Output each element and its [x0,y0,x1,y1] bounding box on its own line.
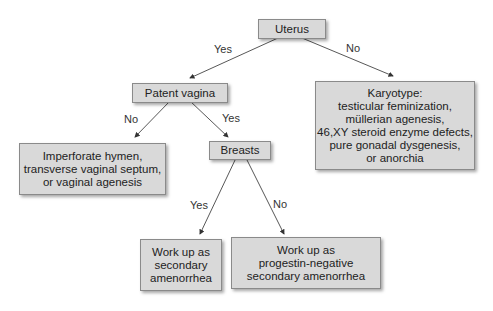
edge-label-breasts-yes: Yes [190,199,208,211]
imperforate-line: Imperforate hymen, [43,150,143,163]
node-imperforate: Imperforate hymen, transverse vaginal se… [19,143,166,195]
node-secondary-amenorrhea: Work up as secondary amenorrhea [140,239,222,291]
secondary-line: amenorrhea [150,272,212,285]
node-breasts: Breasts [209,141,271,160]
karyotype-line: Karyotype: [368,87,423,100]
edge-label-uterus-no: No [346,42,360,54]
node-progestin-negative: Work up as progestin-negative secondary … [231,237,381,289]
progestin-line: secondary amenorrhea [247,270,365,283]
node-uterus: Uterus [258,19,326,39]
imperforate-line: transverse vaginal septum, [24,163,161,176]
karyotype-line: 46,XY steroid enzyme defects, [317,126,473,139]
edge-label-vagina-no: No [124,113,138,125]
edge-label-vagina-yes: Yes [222,112,240,124]
node-patent-vagina-text: Patent vagina [145,87,215,100]
imperforate-line: or vaginal agenesis [43,176,142,189]
progestin-line: progestin-negative [259,257,354,270]
edge-label-uterus-yes: Yes [214,43,232,55]
node-karyotype: Karyotype: testicular feminization, müll… [315,81,475,170]
karyotype-line: testicular feminization, [338,100,452,113]
secondary-line: Work up as [152,246,210,259]
edge-label-breasts-no: No [273,198,287,210]
progestin-line: Work up as [277,244,335,257]
secondary-line: secondary [154,259,207,272]
karyotype-line: pure gonadal dysgenesis, [329,139,460,152]
node-patent-vagina: Patent vagina [132,83,228,103]
node-uterus-text: Uterus [275,23,309,36]
node-breasts-text: Breasts [221,144,260,157]
karyotype-line: müllerian agenesis, [345,113,444,126]
karyotype-line: or anorchia [366,152,424,165]
